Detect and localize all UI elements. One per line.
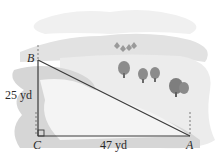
cloud-shape — [34, 10, 197, 34]
side-ca-length: 47 yd — [100, 139, 127, 151]
landscape-illustration — [0, 0, 223, 161]
vertex-label-b: B — [27, 52, 34, 64]
side-bc-length: 25 yd — [5, 89, 32, 101]
vertex-label-c: C — [33, 139, 41, 151]
triangle-diagram: B C A 25 yd 47 yd — [0, 0, 223, 161]
vertex-label-a: A — [186, 139, 193, 151]
